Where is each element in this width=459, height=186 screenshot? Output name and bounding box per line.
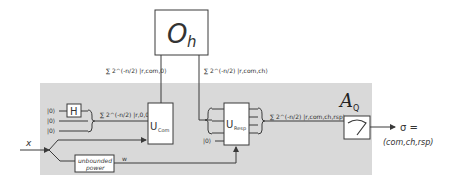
x-input-label: x [25,138,32,148]
output-tuple: (com,ch,rsp) [383,138,433,147]
u-com-sub: Com [158,127,170,133]
advice-label: w [122,155,127,162]
quantum-circuit-diagram: O h ∑ 2^(-n/2) |r,com,0⟩ ∑ 2^(-n/2) |r,c… [0,0,459,186]
qubit-input-2: |0⟩ [47,117,55,125]
u-resp-label: U [226,119,233,130]
oracle-in-label: ∑ 2^(-n/2) |r,com,0⟩ [106,67,166,75]
unbounded-label-2: power [85,164,105,172]
unbounded-label-1: unbounded [78,157,112,164]
oracle-label: O [167,19,187,49]
u-com-label: U [150,121,157,132]
adversary-subscript: Q [353,104,359,113]
hadamard-label: H [70,106,78,117]
resp-ancilla-label: |0⟩ [203,137,211,145]
u-resp-sub: Resp [234,125,246,132]
oracle-subscript: h [187,33,197,51]
adversary-label: A [338,90,353,111]
qubit-input-1: |0⟩ [47,107,55,115]
output-sigma: σ = [400,122,418,133]
qubit-input-3: |0⟩ [47,127,55,135]
resp-out-label: ∑ 2^(-n/2) |r,com,ch,rsp⟩ [270,113,345,121]
hadamard-out-label: ∑ 2^(-n/2) |r,0,0⟩ [100,111,151,119]
oracle-out-label: ∑ 2^(-n/2) |r,com,ch⟩ [204,67,268,75]
